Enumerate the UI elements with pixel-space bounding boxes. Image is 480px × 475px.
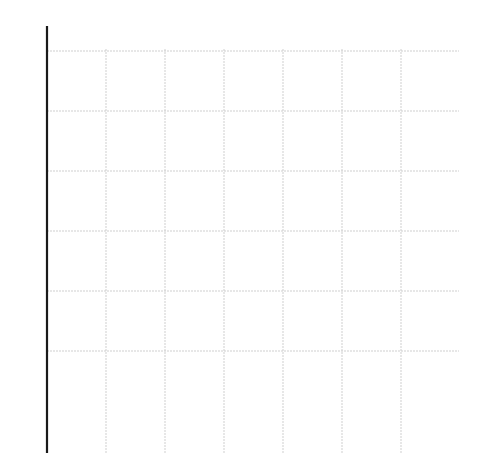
diagram-canvas bbox=[0, 0, 480, 475]
grid bbox=[47, 49, 459, 453]
